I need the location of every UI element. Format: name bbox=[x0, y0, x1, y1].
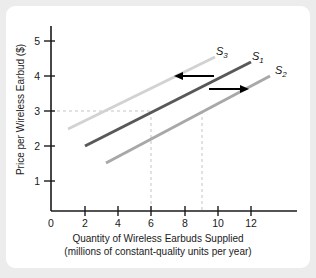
supply-curves bbox=[68, 57, 270, 163]
y-tick-label-4: 4 bbox=[26, 70, 40, 82]
curve-label-s3-sub: 3 bbox=[223, 51, 227, 60]
y-tick-label-1: 1 bbox=[26, 175, 40, 187]
x-tick-label-8: 8 bbox=[177, 217, 193, 229]
y-tick-label-3: 3 bbox=[26, 105, 40, 117]
x-axis-title-line2: (millions of constant-quality units per … bbox=[22, 245, 294, 258]
chart-figure: 5 4 3 2 1 0 2 4 6 8 10 12 Price per Wire… bbox=[0, 0, 316, 278]
curve-label-s2: S2 bbox=[275, 64, 287, 79]
supply-curve-s1 bbox=[85, 62, 251, 146]
curve-label-s3: S3 bbox=[216, 45, 228, 60]
curve-label-s2-sub: 2 bbox=[282, 70, 286, 79]
x-tick-label-6: 6 bbox=[143, 217, 159, 229]
y-axis-title: Price per Wireless Earbud ($) bbox=[15, 30, 26, 190]
y-tick-label-2: 2 bbox=[26, 140, 40, 152]
x-tick-label-2: 2 bbox=[77, 217, 93, 229]
x-axis-title: Quantity of Wireless Earbuds Supplied (m… bbox=[22, 232, 294, 258]
x-tick-label-0: 0 bbox=[43, 217, 59, 229]
y-tick-label-5: 5 bbox=[26, 35, 40, 47]
curve-label-s1-sub: 1 bbox=[259, 56, 263, 65]
x-tick-label-12: 12 bbox=[243, 217, 259, 229]
curve-label-s1: S1 bbox=[252, 50, 264, 65]
x-axis-title-line1: Quantity of Wireless Earbuds Supplied bbox=[22, 232, 294, 245]
x-tick-label-10: 10 bbox=[210, 217, 226, 229]
x-tick-label-4: 4 bbox=[110, 217, 126, 229]
